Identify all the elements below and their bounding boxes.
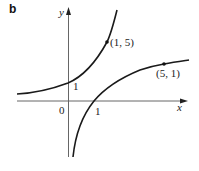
x-tick-label: 1 bbox=[95, 105, 101, 117]
y-tick-label: 1 bbox=[73, 80, 79, 92]
point-5-1 bbox=[162, 62, 166, 66]
origin-label: 0 bbox=[59, 104, 65, 116]
panel-label: b bbox=[9, 2, 16, 16]
point-label-1-5: (1, 5) bbox=[110, 36, 134, 49]
y-axis-label: y bbox=[58, 6, 64, 18]
point-1-5 bbox=[105, 40, 109, 44]
graph-diagram: b y x 0 1 1 (1, 5) (5, 1) bbox=[0, 0, 199, 171]
x-axis-label: x bbox=[176, 101, 182, 113]
y-axis-arrow-icon bbox=[66, 7, 71, 15]
axes bbox=[17, 7, 188, 157]
exponential-curve bbox=[17, 10, 117, 94]
point-label-5-1: (5, 1) bbox=[156, 67, 180, 80]
